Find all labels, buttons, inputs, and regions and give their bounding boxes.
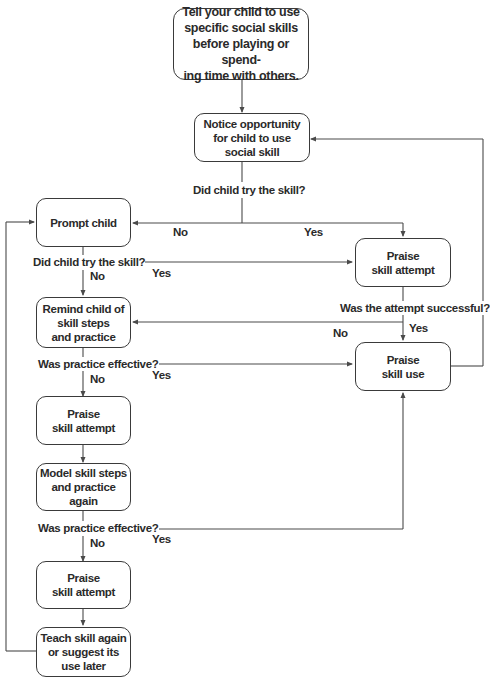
edge-label-q1-yes: Yes [304,225,323,239]
node-start-text: Tell your child to use specific social s… [177,4,305,84]
edge-label-q4-no: No [90,372,105,386]
node-teach-skill-again: Teach skill again or suggest its use lat… [36,627,131,677]
edge-label-q2-yes: Yes [152,266,171,280]
decision-q2: Did child try the skill? [33,255,145,269]
edge-label-q5-no: No [90,536,105,550]
node-praise-attempt-left-1: Praise skill attempt [36,396,131,445]
node-praise-attempt-left-1-text: Praise skill attempt [52,407,115,435]
node-notice-opportunity: Notice opportunity for child to use soci… [194,113,310,162]
node-teach-text: Teach skill again or suggest its use lat… [40,631,126,673]
edge-label-q1-no: No [173,225,188,239]
node-notice-text: Notice opportunity for child to use soci… [204,117,301,159]
decision-q1: Did child try the skill? [193,183,305,197]
node-praise-attempt-left-2: Praise skill attempt [36,561,131,609]
decision-q3: Was the attempt successful? [340,301,490,315]
edge-label-q3-yes: Yes [409,321,428,335]
node-praise-attempt-right-text: Praise skill attempt [371,249,434,277]
node-prompt-child: Prompt child [36,198,131,247]
node-praise-skill-use: Praise skill use [355,342,451,391]
decision-q4: Was practice effective? [38,357,159,371]
edge-label-q3-no: No [333,326,348,340]
node-start: Tell your child to use specific social s… [173,8,309,80]
edge-label-q2-no: No [90,269,105,283]
node-model-text: Model skill steps and practice again [40,466,127,508]
node-prompt-text: Prompt child [50,216,117,230]
edge-label-q4-yes: Yes [152,368,171,382]
node-remind-child: Remind child of skill steps and practice [36,297,131,348]
edge-label-q5-yes: Yes [152,532,171,546]
node-praise-use-text: Praise skill use [382,353,425,381]
node-praise-attempt-right: Praise skill attempt [355,238,451,287]
node-model-skill-steps: Model skill steps and practice again [36,463,131,511]
decision-q5: Was practice effective? [38,521,159,535]
node-remind-text: Remind child of skill steps and practice [43,302,125,344]
node-praise-attempt-left-2-text: Praise skill attempt [52,571,115,599]
